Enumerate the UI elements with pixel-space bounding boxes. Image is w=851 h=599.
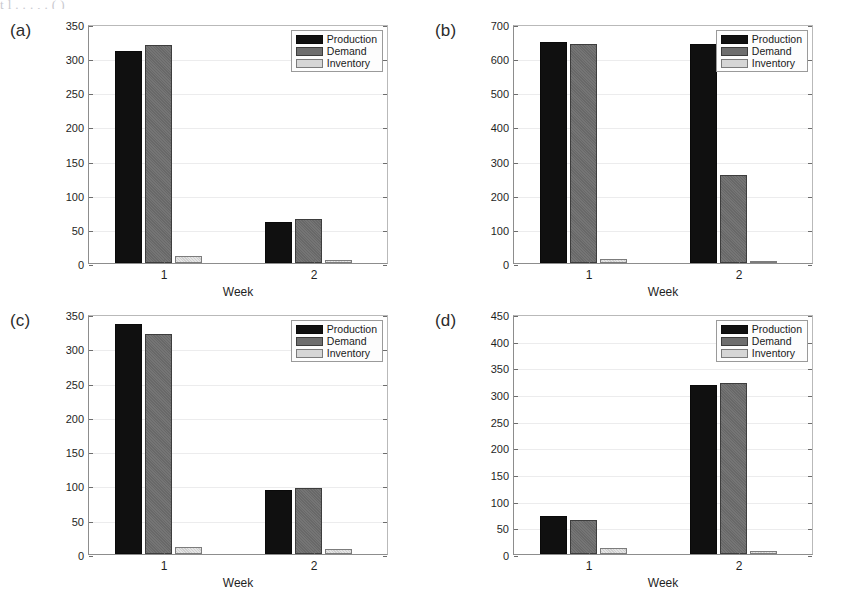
y-tick-label: 250 [66, 88, 89, 100]
panel-c-legend[interactable]: ProductionDemandInventory [291, 320, 383, 362]
panel-a-x-axis-label: Week [89, 285, 387, 299]
legend-item-demand[interactable]: Demand [296, 46, 377, 56]
x-tick-label-week-2: 2 [736, 268, 743, 282]
y-tick-mark-right [383, 385, 387, 386]
y-tick-label: 250 [66, 379, 89, 391]
y-tick-mark-right [383, 197, 387, 198]
bar-inventory-week-1 [175, 256, 202, 264]
y-tick-mark-right [808, 163, 812, 164]
panel-b-x-axis-label: Week [514, 285, 812, 299]
y-tick-mark-right [808, 26, 812, 27]
x-tick-mark [739, 550, 740, 554]
y-tick-mark-right [383, 487, 387, 488]
y-tick-mark [89, 385, 93, 386]
bar-demand-week-2 [720, 175, 747, 263]
y-tick-mark-right [383, 94, 387, 95]
panel-b-legend[interactable]: ProductionDemandInventory [716, 30, 808, 72]
bar-inventory-week-2 [750, 261, 777, 263]
y-tick-label: 200 [66, 122, 89, 134]
y-tick-mark-right [808, 396, 812, 397]
y-tick-mark-right [808, 423, 812, 424]
bar-demand-week-1 [145, 334, 172, 554]
y-tick-mark-right [383, 350, 387, 351]
y-tick-mark [514, 163, 518, 164]
bar-demand-week-2 [295, 219, 322, 263]
legend-item-inventory[interactable]: Inventory [721, 348, 802, 358]
bar-production-week-2 [690, 385, 717, 554]
y-tick-label: 350 [491, 363, 514, 375]
bar-inventory-week-2 [750, 551, 777, 554]
panel-a: (a)05010015020025030035012WeekProduction… [0, 0, 425, 300]
y-tick-mark-right [383, 522, 387, 523]
legend-label-inventory: Inventory [327, 348, 370, 358]
x-tick-mark [589, 259, 590, 263]
bar-demand-week-2 [295, 488, 322, 555]
y-tick-mark-right [383, 60, 387, 61]
legend-item-inventory[interactable]: Inventory [721, 58, 802, 68]
y-tick-mark-right [808, 369, 812, 370]
legend-item-production[interactable]: Production [721, 324, 802, 334]
panel-a-plot-area: 05010015020025030035012WeekProductionDem… [88, 25, 388, 264]
bar-inventory-week-1 [600, 548, 627, 554]
y-tick-label: 50 [497, 523, 514, 535]
legend-item-inventory[interactable]: Inventory [296, 58, 377, 68]
legend-label-production: Production [327, 34, 377, 44]
panel-d-letter-label: (d) [435, 311, 456, 331]
y-tick-mark-right [383, 265, 387, 266]
x-tick-label-week-2: 2 [311, 559, 318, 573]
legend-label-inventory: Inventory [752, 58, 795, 68]
x-tick-mark [314, 550, 315, 554]
legend-item-inventory[interactable]: Inventory [296, 348, 377, 358]
y-tick-mark [514, 449, 518, 450]
bar-production-week-2 [265, 490, 292, 554]
legend-item-demand[interactable]: Demand [721, 46, 802, 56]
y-tick-label: 400 [491, 337, 514, 349]
y-tick-label: 0 [78, 550, 89, 562]
y-tick-mark-right [383, 453, 387, 454]
y-tick-mark-right [808, 503, 812, 504]
x-tick-mark [164, 550, 165, 554]
panel-a-legend[interactable]: ProductionDemandInventory [291, 30, 383, 72]
y-tick-label: 50 [72, 516, 89, 528]
legend-item-production[interactable]: Production [296, 34, 377, 44]
legend-label-demand: Demand [752, 46, 792, 56]
y-tick-mark [89, 350, 93, 351]
legend-swatch-inventory-icon [296, 59, 323, 68]
y-tick-mark-right [808, 476, 812, 477]
panel-d-legend[interactable]: ProductionDemandInventory [716, 320, 808, 362]
y-tick-mark-right [808, 449, 812, 450]
x-tick-mark [164, 259, 165, 263]
y-tick-label: 700 [491, 20, 514, 32]
y-tick-label: 100 [66, 191, 89, 203]
gridline [514, 476, 812, 477]
figure-panel-grid: (a)05010015020025030035012WeekProduction… [0, 0, 851, 599]
y-tick-mark-right [808, 529, 812, 530]
gridline [514, 423, 812, 424]
gridline [514, 369, 812, 370]
gridline [514, 503, 812, 504]
y-tick-mark [514, 476, 518, 477]
y-tick-mark-right [808, 316, 812, 317]
y-tick-mark-right [383, 26, 387, 27]
y-tick-mark [89, 487, 93, 488]
legend-swatch-inventory-icon [721, 349, 748, 358]
legend-swatch-demand-icon [721, 337, 748, 346]
legend-swatch-demand-icon [296, 47, 323, 56]
y-tick-mark [89, 163, 93, 164]
legend-item-demand[interactable]: Demand [296, 336, 377, 346]
y-tick-mark-right [383, 316, 387, 317]
legend-label-production: Production [752, 324, 802, 334]
y-tick-mark [514, 369, 518, 370]
legend-item-demand[interactable]: Demand [721, 336, 802, 346]
y-tick-mark [89, 231, 93, 232]
y-tick-label: 500 [491, 88, 514, 100]
y-tick-mark [514, 503, 518, 504]
legend-item-production[interactable]: Production [296, 324, 377, 334]
y-tick-mark [514, 94, 518, 95]
y-tick-mark [514, 423, 518, 424]
y-tick-mark-right [808, 128, 812, 129]
y-tick-label: 600 [491, 54, 514, 66]
legend-swatch-production-icon [721, 35, 748, 44]
legend-item-production[interactable]: Production [721, 34, 802, 44]
y-tick-label: 100 [66, 481, 89, 493]
